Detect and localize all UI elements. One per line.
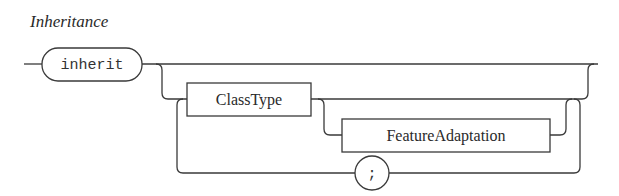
syntax-diagram: Inheritance inherit ClassType FeatureAda… (0, 0, 619, 196)
nonterminal-classtype-label: ClassType (216, 91, 282, 109)
join-to-main (566, 64, 594, 99)
terminal-semicolon: ; (355, 156, 389, 190)
terminal-semicolon-label: ; (367, 166, 376, 183)
nonterminal-classtype: ClassType (187, 83, 311, 116)
terminal-inherit-label: inherit (60, 57, 123, 74)
nonterminal-featureadaptation: FeatureAdaptation (342, 119, 550, 152)
diagram-title: Inheritance (29, 12, 109, 31)
branch-to-classtype (156, 64, 187, 99)
nonterminal-featureadaptation-label: FeatureAdaptation (386, 127, 505, 145)
branch-to-featureadaptation (318, 99, 342, 135)
terminal-inherit: inherit (42, 48, 142, 81)
featureadaptation-join (550, 99, 572, 135)
